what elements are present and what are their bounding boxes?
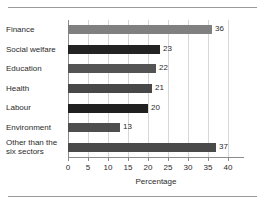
chart-figure: FinanceSocial welfareEducationHealthLabo… [0,0,265,203]
bar-value-label: 13 [123,122,132,131]
plot-area: 36232221201337 [68,20,244,157]
category-axis-labels: FinanceSocial welfareEducationHealthLabo… [6,20,64,157]
bar-value-label: 37 [219,142,228,151]
x-tick-label-30: 30 [184,163,193,172]
category-label: Other than thesix sectors [6,137,64,157]
bar [68,45,160,54]
bar-row: 13 [68,118,244,138]
bar [68,84,152,93]
bar-value-label: 21 [155,83,164,92]
category-label: Labour [6,98,64,118]
bar [68,123,120,132]
bar-rows: 36232221201337 [68,20,244,157]
top-divider-rule [8,7,257,8]
bar-row: 20 [68,98,244,118]
bar-row: 21 [68,79,244,99]
bar [68,104,148,113]
x-tick-label-10: 10 [104,163,113,172]
bar [68,64,156,73]
x-tick-label-25: 25 [164,163,173,172]
x-tick-25 [168,157,169,161]
x-tick-label-35: 35 [204,163,213,172]
category-label-line: Social welfare [6,45,64,55]
category-label: Education [6,59,64,79]
x-tick-label-20: 20 [144,163,153,172]
bar-row: 23 [68,40,244,60]
category-label-line: Environment [6,123,64,133]
category-label: Environment [6,118,64,138]
category-label: Social welfare [6,40,64,60]
x-tick-10 [108,157,109,161]
x-tick-0 [68,157,69,161]
x-tick-30 [188,157,189,161]
category-label-line: Education [6,64,64,74]
x-axis-line [68,157,244,158]
x-tick-label-0: 0 [66,163,70,172]
bar-row: 36 [68,20,244,40]
bar-value-label: 22 [159,63,168,72]
category-label-line: six sectors [6,147,64,157]
category-label-line: Labour [6,103,64,113]
x-tick-label-15: 15 [124,163,133,172]
category-label-line: Finance [6,25,64,35]
x-tick-35 [208,157,209,161]
bottom-divider-rule [8,196,257,197]
x-tick-label-40: 40 [224,163,233,172]
x-axis-title: Percentage [68,177,244,186]
category-label-line: Health [6,84,64,94]
bar [68,25,212,34]
x-tick-40 [228,157,229,161]
bar-value-label: 23 [163,44,172,53]
x-tick-label-5: 5 [86,163,90,172]
bar-value-label: 36 [215,24,224,33]
category-label-line: Other than the [6,138,64,148]
bar [68,143,216,152]
category-label: Health [6,79,64,99]
x-tick-20 [148,157,149,161]
x-tick-15 [128,157,129,161]
bar-row: 22 [68,59,244,79]
x-tick-5 [88,157,89,161]
bar-value-label: 20 [151,103,160,112]
category-label: Finance [6,20,64,40]
bar-row: 37 [68,137,244,157]
